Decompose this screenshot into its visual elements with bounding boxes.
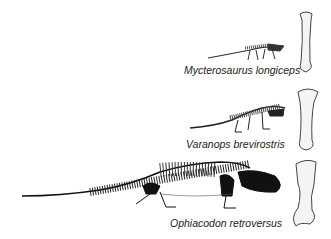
skeleton-ophiacodon (22, 162, 280, 208)
humerus-varanops (298, 89, 318, 150)
humerus-mycterosaurus (300, 12, 312, 72)
skeleton-varanops (190, 106, 285, 132)
skeleton-mycterosaurus (208, 44, 284, 60)
label-ophiacodon: Ophiacodon retroversus (170, 217, 282, 229)
humerus-ophiacodon (293, 160, 316, 226)
label-mycterosaurus: Mycterosaurus longiceps (184, 64, 300, 76)
label-varanops: Varanops brevirostris (186, 138, 285, 150)
figure-canvas (0, 0, 331, 239)
